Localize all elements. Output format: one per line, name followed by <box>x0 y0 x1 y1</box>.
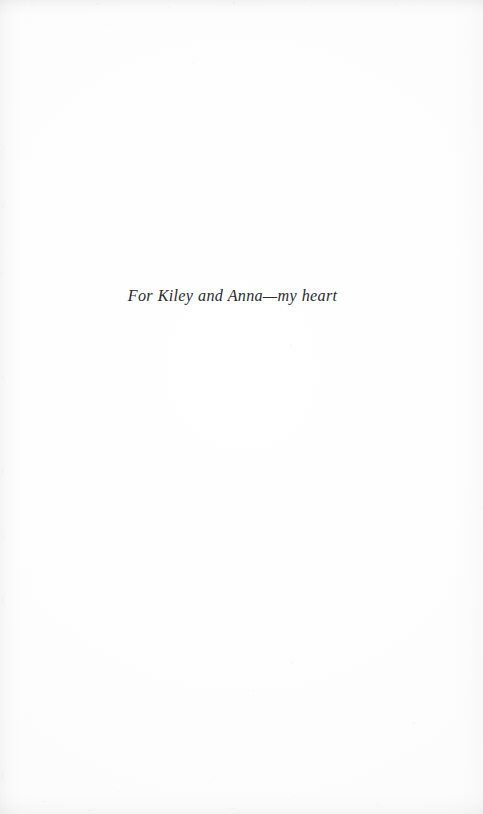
scan-edge-shadow-right <box>453 0 483 814</box>
scan-edge-shadow-top <box>0 0 483 16</box>
dedication: For Kiley and Anna—my heart <box>0 286 483 307</box>
dedication-text: For Kiley and Anna—my heart <box>128 286 337 307</box>
paper-texture <box>0 0 483 814</box>
scan-edge-shadow-left <box>0 0 26 814</box>
scan-edge-shadow-bottom <box>0 792 483 814</box>
dedication-page: For Kiley and Anna—my heart <box>0 0 483 814</box>
scan-speckle-noise <box>0 0 483 814</box>
